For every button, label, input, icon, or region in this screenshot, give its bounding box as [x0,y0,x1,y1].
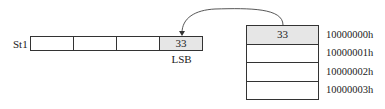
register-name: St1 [13,36,29,52]
address-label-1: 10000001h [326,47,373,59]
register-byte-0-lsb: 33 [160,37,202,50]
address-label-2: 10000002h [326,66,373,78]
register-st1: 33 [30,36,203,51]
memory-cell-3 [247,82,318,100]
register-byte-1 [117,37,160,50]
memory-cell-2 [247,63,318,82]
address-label-0: 10000000h [326,29,373,41]
register-byte-2 [74,37,117,50]
memory-column: 33 [246,25,319,100]
memory-cell-0: 33 [247,26,318,45]
lsb-label: LSB [160,53,203,66]
address-label-3: 10000003h [326,84,373,96]
memory-cell-1 [247,45,318,64]
register-byte-3 [31,37,74,50]
